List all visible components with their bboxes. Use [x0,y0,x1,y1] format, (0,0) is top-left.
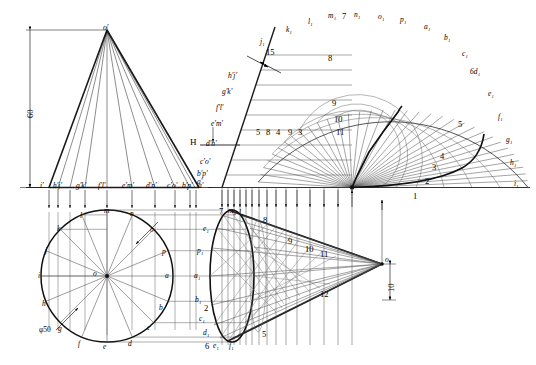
projection-arrows-aux [222,190,338,207]
dev-label-i1: i₁ [514,180,519,188]
dev-label-a1: a₁ [424,23,430,31]
dev-num-11: 11 [336,128,344,137]
dev-label-o1: o₁ [378,13,384,21]
plan-label-i: i [38,272,40,280]
aux-center-num-3: 3 [298,128,302,137]
front-base-label-bp: b'p' [182,182,193,190]
cone-left-label-a1: a₁ [194,272,200,280]
cone-num-8: 8 [263,216,267,225]
front-base-label-hj: h'j' [53,182,62,190]
dimension-label-15: 15 [266,48,275,57]
cone-bottom-label-5: 5 [262,330,266,339]
plan-to-cone-transfer-lines-left [41,215,107,276]
cone-mid-num-2: 2 [204,304,208,313]
dev-num-8: 8 [328,54,332,63]
dev-num-9: 9 [332,99,336,108]
plan-center-label: o [93,270,97,278]
aux-label-dn: d'n' [206,140,217,148]
cone-left-label-p1: p₁ [197,247,203,255]
front-apex-label: o' [103,24,108,32]
dev-num-1: 1 [413,192,417,201]
aux-label-co: c'o' [200,158,210,166]
plan-label-l: l [80,212,82,220]
cone-left-label-d1: d₁ [203,329,209,337]
plan-label-b: b [159,304,163,312]
dev-num-5: 5 [458,120,462,129]
cone-label-m1: m₁ [228,207,236,215]
plan-label-o: o [150,226,154,234]
plan-label-h: h [42,300,46,308]
aux-label-gk: g'k' [222,88,232,96]
front-base-label-i: i' [40,182,44,190]
aux-center-num-8: 8 [266,128,270,137]
front-elevation-view [26,26,212,188]
cone-label-7: 7 [219,207,223,216]
cone-bottom-label-f1: f₁ [229,342,234,350]
plan-label-m: m [104,207,109,215]
plan-label-e: e [103,343,106,351]
projection-arrows-front-to-plan [49,190,196,208]
aux-label-hj: h'j' [228,72,237,80]
cone-left-label-e1: e₁ [203,225,209,233]
dev-num-4: 4 [440,152,444,161]
aux-center-num-5: 5 [256,128,260,137]
aux-label-bp: b'p' [197,170,208,178]
dimension-label-60: 60 [26,110,35,119]
cone-apex-label: o₁ [385,256,391,264]
cone-bottom-label-6: 6 [205,342,209,351]
dev-label-p1: p₁ [400,16,406,24]
front-base-label-fl: f'l' [98,182,105,190]
plan-label-a: a [165,272,169,280]
dev-num-7: 7 [342,12,346,21]
plan-label-g: g [58,325,62,333]
front-base-label-dn: d'n' [146,182,157,190]
auxiliary-true-length-view [200,27,530,188]
front-base-label-em: e'm' [122,182,134,190]
plan-label-c: c [147,324,150,332]
cone-left-label-b1: b₁ [195,296,201,304]
front-base-label-gk: g'k' [76,182,86,190]
cone-left-label-c1: c₁ [199,315,205,323]
aux-label-em: e'm' [211,120,223,128]
plane-label-h: H [190,138,197,147]
cone-bottom-label-e1: e₁ [213,342,219,350]
dev-label-f1: f₁ [498,113,503,121]
development-fan [258,95,528,190]
cone-num-11: 11 [320,250,328,259]
dev-label-j1: j₁ [260,38,265,46]
engineering-drawing-sheet: 60 o' i' h'j' g'k' f'l' e'm' d'n' c'o' b… [0,0,536,365]
cone-num-10: 10 [305,245,314,254]
dimension-label-10: 10 [387,284,396,293]
front-base-label-co: c'o' [167,182,177,190]
dev-num-2: 2 [425,177,429,186]
plan-label-f: f [78,340,80,348]
dev-num-3: 3 [432,163,436,172]
cone-num-12: 12 [320,290,329,299]
dev-num-10: 10 [334,115,343,124]
dev-label-e1: e₁ [488,90,494,98]
plan-label-k: k [57,225,60,233]
dimension-label-diameter: φ50 [39,326,51,334]
plan-label-j: j [45,247,47,255]
dev-label-l1: l₁ [308,18,313,26]
cone-label-l1: l₁ [239,209,244,217]
dev-label-m1: m₁ [328,12,336,20]
aux-center-num-4: 4 [276,128,280,137]
dev-label-k1: k₁ [286,26,292,34]
aux-center-num-9: 9 [288,128,292,137]
dev-label-6d1: 6d₁ [470,68,480,76]
plan-to-front-projectors [49,212,196,335]
dev-label-c1: c₁ [462,50,468,58]
cone-num-9: 9 [288,237,292,246]
plan-label-d: d [128,340,132,348]
dev-label-g1: g₁ [506,136,512,144]
dev-label-h1: h₁ [510,159,516,167]
plan-label-n: n [130,210,134,218]
dev-label-b1: b₁ [444,34,450,42]
aux-label-fl: f'l' [216,104,223,112]
aux-label-a: a' [198,182,203,190]
dev-label-n1: n₁ [354,11,360,19]
plan-label-p: p [162,248,166,256]
